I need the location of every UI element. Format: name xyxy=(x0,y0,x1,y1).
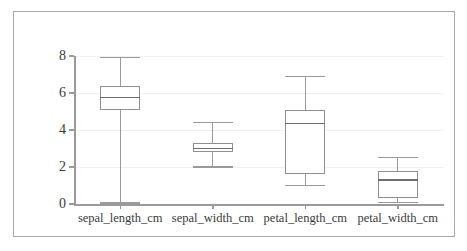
x-tick xyxy=(397,204,399,209)
x-tick-label: sepal_width_cm xyxy=(172,212,254,225)
whisker-cap-lower xyxy=(378,202,418,203)
x-tick xyxy=(120,204,122,209)
whisker-cap-upper xyxy=(378,157,418,158)
y-tick-label: 2 xyxy=(59,160,66,174)
x-tick xyxy=(212,204,214,209)
box-plot xyxy=(74,56,444,204)
median-line xyxy=(378,179,418,180)
y-tick-label: 8 xyxy=(59,49,66,63)
whisker-upper xyxy=(397,158,398,171)
y-tick-label: 6 xyxy=(59,86,66,100)
x-tick xyxy=(305,204,307,209)
plot-area: 02468 sepal_length_cmsepal_width_cmpetal… xyxy=(74,56,444,204)
x-axis-line xyxy=(74,204,444,206)
y-tick-label: 0 xyxy=(59,197,66,211)
chart-frame: 02468 sepal_length_cmsepal_width_cmpetal… xyxy=(13,11,455,237)
x-tick-label: petal_length_cm xyxy=(264,212,347,225)
y-tick-label: 4 xyxy=(59,123,66,137)
box-iqr xyxy=(378,171,418,199)
x-tick-label: petal_width_cm xyxy=(357,212,438,225)
x-tick-label: sepal_length_cm xyxy=(78,212,163,225)
